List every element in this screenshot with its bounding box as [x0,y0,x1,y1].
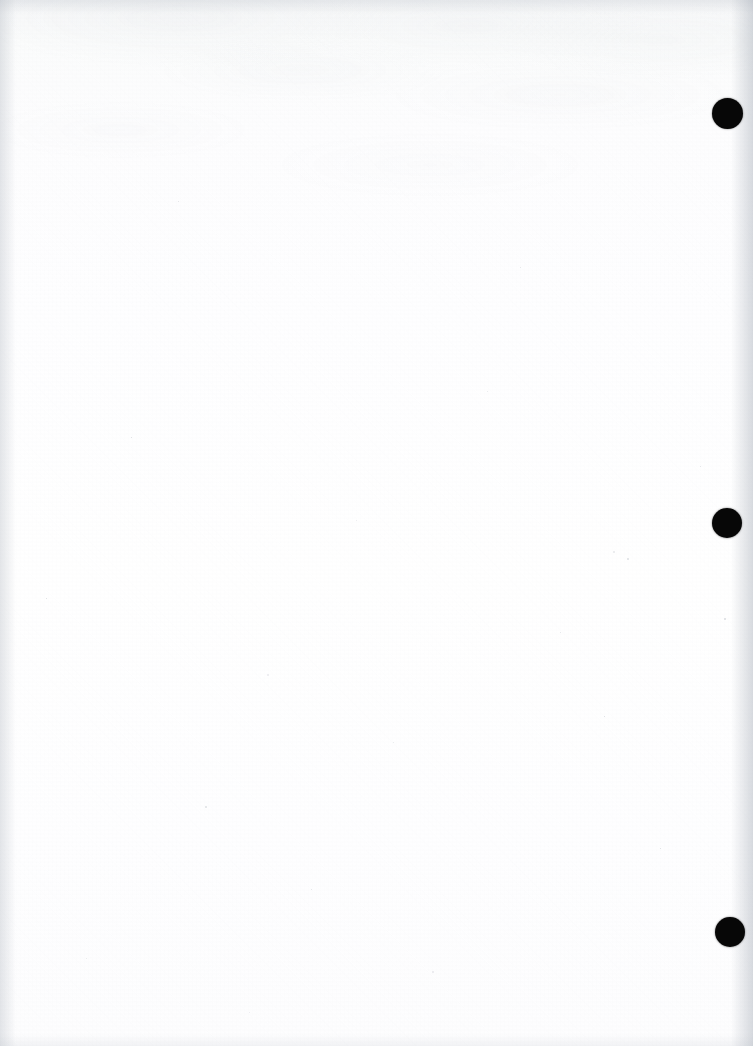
scanned-page [0,0,753,1046]
mark-top [712,98,743,129]
dust-speck [700,466,701,467]
dust-speck [393,742,394,743]
dust-speck [356,520,357,521]
mark-middle [712,508,742,538]
dust-speck-layer [0,0,753,1046]
dust-speck [660,848,661,849]
dust-speck [131,437,132,438]
dust-speck [178,201,179,202]
dust-speck [205,806,207,808]
dust-speck [249,1012,250,1013]
dust-speck [86,958,87,959]
dust-speck [487,391,488,392]
dust-speck [560,632,561,633]
dust-speck [432,971,434,973]
dust-speck [627,558,629,560]
dust-speck [604,716,605,717]
dust-speck [311,889,312,890]
dust-speck [46,598,47,599]
dust-speck [267,674,269,676]
mark-bottom [715,917,745,947]
dust-speck [724,618,726,620]
dust-speck [520,267,521,268]
dust-speck [613,551,615,553]
